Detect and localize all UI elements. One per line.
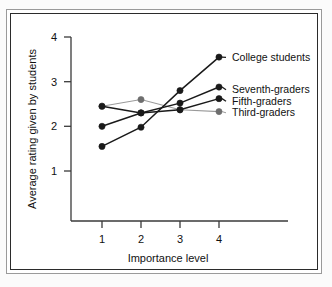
data-point <box>177 88 183 94</box>
y-tick-label-2: 2 <box>51 120 57 132</box>
legend-leader-line <box>222 112 226 113</box>
series-fifth-graders <box>99 96 222 116</box>
series-college-students <box>99 54 222 150</box>
y-tick-label-4: 4 <box>51 31 57 43</box>
data-point <box>216 84 222 90</box>
legend-layer: College studentsSeventh-gradersFifth-gra… <box>222 51 310 119</box>
legend-label: College students <box>232 51 310 63</box>
line-chart-svg: 4 3 2 1 1 2 3 4 Importance level Aver <box>0 0 332 287</box>
data-series-layer <box>99 54 222 150</box>
series-line <box>102 57 219 146</box>
y-tick-label-3: 3 <box>51 76 57 88</box>
data-point <box>138 110 144 116</box>
chart-plot-area: 4 3 2 1 1 2 3 4 Importance level Aver <box>0 0 332 287</box>
legend-label: Fifth-graders <box>232 95 292 107</box>
x-axis-ticks <box>102 221 219 228</box>
x-tick-label-2: 2 <box>138 233 144 245</box>
data-point <box>138 96 144 102</box>
legend-item-fifth-graders[interactable]: Fifth-graders <box>222 95 292 107</box>
y-tick-label-1: 1 <box>51 165 57 177</box>
legend-label: Seventh-graders <box>232 83 310 95</box>
x-tick-label-1: 1 <box>99 233 105 245</box>
x-tick-label-4: 4 <box>216 233 222 245</box>
data-point <box>99 143 105 149</box>
legend-item-seventh-graders[interactable]: Seventh-graders <box>222 83 310 95</box>
figure-container: 4 3 2 1 1 2 3 4 Importance level Aver <box>0 0 332 287</box>
data-point <box>138 124 144 130</box>
series-seventh-graders <box>99 84 222 130</box>
y-axis-title: Average rating given by students <box>26 48 38 209</box>
legend-item-third-graders[interactable]: Third-graders <box>222 106 295 118</box>
data-point <box>216 54 222 60</box>
series-line <box>102 87 219 126</box>
data-point <box>216 96 222 102</box>
data-point <box>177 100 183 106</box>
data-point <box>177 107 183 113</box>
x-axis-tick-labels: 1 2 3 4 <box>99 233 222 245</box>
y-axis-ticks <box>64 37 71 171</box>
legend-leader-line <box>222 87 226 90</box>
data-point <box>216 108 222 114</box>
legend-label: Third-graders <box>232 106 295 118</box>
y-axis-tick-labels: 4 3 2 1 <box>51 31 57 177</box>
x-tick-label-3: 3 <box>177 233 183 245</box>
data-point <box>99 103 105 109</box>
legend-leader-line <box>222 99 226 102</box>
data-point <box>99 123 105 129</box>
x-axis-title: Importance level <box>128 252 209 264</box>
legend-item-college-students[interactable]: College students <box>222 51 310 63</box>
